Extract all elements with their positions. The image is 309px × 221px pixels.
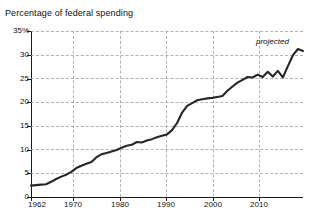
y-tick-label-5: 5: [3, 169, 29, 177]
projected-annotation: projected: [256, 37, 289, 46]
x-tick-label-2010: 2010: [250, 201, 268, 209]
series-line-chart: [31, 31, 303, 197]
y-tick-label-20: 20: [3, 98, 29, 106]
series-line-path: [31, 49, 303, 186]
y-tick-label-0: 0: [3, 193, 29, 201]
y-axis-labels: 35% 30 25 20 15 10 5 0: [0, 0, 29, 221]
y-tick-label-35: 35%: [3, 27, 29, 35]
x-tick-label-2000: 2000: [204, 201, 222, 209]
x-tick-label-1980: 1980: [111, 201, 129, 209]
x-tick-label-1962: 1962: [28, 201, 46, 209]
y-tick-label-10: 10: [3, 146, 29, 154]
x-tick-label-1970: 1970: [64, 201, 82, 209]
y-tick-label-30: 30: [3, 51, 29, 59]
chart-container: Percentage of federal spending 35% 30 25…: [0, 0, 309, 221]
x-tick-label-1990: 1990: [157, 201, 175, 209]
x-axis-line: [31, 197, 303, 198]
y-tick-label-15: 15: [3, 122, 29, 130]
y-tick-label-25: 25: [3, 75, 29, 83]
plot-area: [31, 31, 303, 197]
